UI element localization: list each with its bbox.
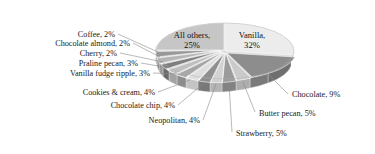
- label-praline-pecan: Praline pecan, 3%: [79, 59, 139, 68]
- sidewall-neopolitan: [210, 82, 222, 92]
- label-all-others-line2: 25%: [184, 40, 200, 50]
- label-all-others-line1: All others,: [174, 30, 210, 40]
- pie-chart-figure: All others, 25% Vanilla, 32% Coffee, 2% …: [0, 0, 375, 154]
- label-vanilla-line2: 32%: [244, 40, 260, 50]
- label-butter-pecan: Butter pecan, 5%: [259, 109, 316, 118]
- label-chocolate-almond: Chocolate almond, 2%: [55, 39, 130, 48]
- label-vanilla-line1: Vanilla,: [239, 30, 266, 40]
- label-chocolate: Chocolate, 9%: [292, 90, 340, 99]
- label-vanilla-fudge-ripple: Vanilla fudge ripple, 3%: [70, 69, 150, 78]
- label-cookies-cream: Cookies & cream, 4%: [83, 88, 155, 97]
- label-chocolate-chip: Chocolate chip, 4%: [111, 101, 176, 110]
- label-cherry: Cherry, 2%: [80, 49, 117, 58]
- label-strawberry: Strawberry, 5%: [236, 129, 287, 138]
- label-coffee: Coffee, 2%: [78, 30, 115, 39]
- pie-chart-svg: All others, 25% Vanilla, 32% Coffee, 2% …: [0, 0, 375, 154]
- label-neopolitan: Neopolitan, 4%: [149, 116, 201, 125]
